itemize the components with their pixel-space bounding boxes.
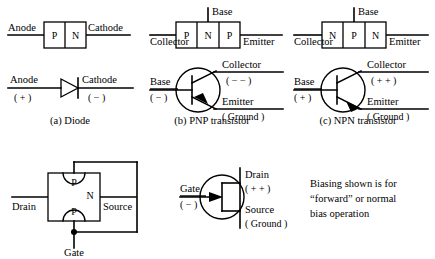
jfet-drain-label: Drain [245, 169, 270, 180]
npn-collector-label: Collector [367, 59, 407, 70]
npn-region-n2: N [372, 30, 379, 41]
jfet-gate-polarity: ( − ) [180, 199, 197, 211]
pnp-emitter-label: Emitter [222, 96, 254, 107]
diode-symbol-cathode-label: Cathode [82, 74, 117, 85]
diode-symbol-group: Anode Cathode ( + ) ( − ) [8, 74, 133, 104]
npn-caption: (c) NPN transistor [320, 115, 397, 127]
pnp-collector-slant [192, 71, 216, 83]
npn-structure-emitter-label: Emitter [389, 36, 421, 47]
jfet-structure-gate-label: Gate [64, 247, 84, 258]
diode-structure: P N Anode Cathode [8, 22, 130, 48]
pnp-structure-collector-label: Collector [150, 36, 190, 47]
npn-collector-slant [337, 71, 361, 83]
jfet-structure: P P N Drain Source Gate [12, 162, 137, 258]
diode-structure-anode-label: Anode [8, 22, 36, 33]
npn-symbol-group: Base ( + ) Collector ( + + ) Emitter ( G… [294, 59, 428, 123]
pnp-caption: (b) PNP transistor [174, 115, 250, 127]
jfet-structure-drain-label: Drain [12, 201, 37, 212]
jfet-structure-source-label: Source [103, 201, 132, 212]
npn-collector-polarity: ( + + ) [371, 75, 396, 87]
jfet-symbol-group: Gate ( − ) Drain ( + + ) Source ( Ground… [180, 168, 287, 230]
diode-cathode-polarity: ( − ) [88, 92, 105, 104]
jfet-p-label-bottom: P [71, 206, 77, 217]
jfet-gate-arrow [209, 192, 223, 202]
jfet-p-label-top: P [71, 177, 77, 188]
pnp-region-n: N [204, 30, 211, 41]
npn-structure-collector-label: Collector [294, 36, 334, 47]
bias-note-line-2: “forward” or normal [310, 193, 396, 204]
npn-structure-base-label: Base [358, 6, 379, 17]
pnp-structure-base-label: Base [212, 6, 233, 17]
jfet-gate-junction-dot [71, 229, 77, 235]
diode-region-p: P [52, 30, 58, 41]
npn-emitter-label: Emitter [367, 96, 399, 107]
pnp-symbol-group: Base ( − ) Collector ( − − ) Emitter ( G… [150, 59, 283, 123]
npn-structure: N P N Collector Emitter Base [294, 6, 428, 48]
npn-base-label: Base [294, 76, 315, 87]
pnp-collector-label: Collector [222, 59, 262, 70]
pnp-structure: P N P Collector Emitter Base [150, 6, 282, 48]
npn-base-polarity: ( + ) [294, 92, 311, 104]
pnp-collector-polarity: ( − − ) [226, 75, 251, 87]
jfet-gate-label: Gate [180, 183, 200, 194]
jfet-drain-polarity: ( + + ) [245, 183, 270, 195]
diode-structure-cathode-label: Cathode [88, 22, 123, 33]
jfet-n-channel-label: N [86, 190, 93, 201]
diode-anode-polarity: ( + ) [14, 92, 31, 104]
diode-symbol-triangle [61, 79, 78, 97]
bias-note-line-3: bias operation [310, 208, 370, 219]
npn-region-p: P [351, 30, 357, 41]
semiconductor-figure: P N Anode Cathode Anode Cathode ( + ) ( … [0, 0, 435, 259]
jfet-source-label: Source [245, 204, 274, 215]
diode-caption: (a) Diode [50, 115, 90, 127]
diode-region-n: N [72, 30, 79, 41]
bias-note: Biasing shown is for “forward” or normal… [310, 178, 397, 219]
pnp-structure-emitter-label: Emitter [243, 36, 275, 47]
bias-note-line-1: Biasing shown is for [310, 178, 397, 189]
pnp-region-p2: P [227, 30, 233, 41]
jfet-source-polarity: ( Ground ) [245, 218, 287, 230]
diode-symbol-anode-label: Anode [10, 74, 38, 85]
figure-canvas: P N Anode Cathode Anode Cathode ( + ) ( … [0, 0, 435, 259]
pnp-base-polarity: ( − ) [150, 92, 167, 104]
pnp-base-label: Base [150, 76, 171, 87]
